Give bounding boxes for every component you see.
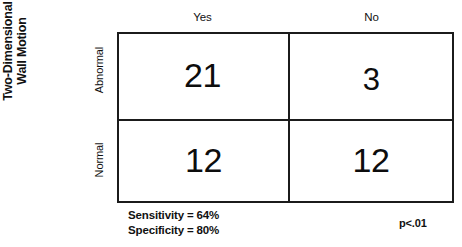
row-header-normal: Normal (91, 125, 107, 195)
column-header-no: No (288, 8, 455, 26)
matrix-grid: 21 3 12 12 (117, 32, 454, 203)
confusion-matrix-figure: Two-Dimensional Wall Motion Yes No Abnor… (0, 0, 462, 247)
specificity-label: Specificity = 80% (128, 223, 219, 238)
statistics-annotation: Sensitivity = 64% Specificity = 80% (128, 208, 219, 238)
cell-value: 12 (185, 143, 222, 177)
cell-value: 12 (353, 143, 390, 177)
cell-normal-no: 12 (288, 119, 452, 201)
cell-value: 21 (184, 58, 221, 92)
cell-value: 3 (363, 64, 380, 95)
cell-normal-yes: 12 (119, 119, 288, 201)
sensitivity-label: Sensitivity = 64% (128, 208, 219, 223)
cell-abnormal-no: 3 (288, 34, 452, 119)
row-group-axis-title: Two-Dimensional Wall Motion (0, 0, 35, 110)
row-group-axis-title-line-2: Wall Motion (15, 17, 29, 84)
row-header-abnormal: Abnormal (91, 35, 107, 105)
row-group-axis-title-line-1: Two-Dimensional (1, 1, 15, 101)
cell-abnormal-yes: 21 (119, 34, 288, 119)
p-value-label: p<.01 (399, 217, 427, 229)
column-header-yes: Yes (118, 8, 287, 26)
